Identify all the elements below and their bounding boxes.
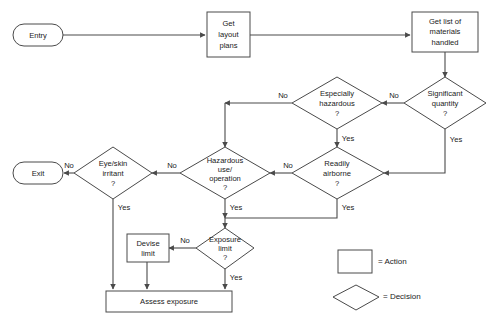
node-readily-airborne[interactable]: Readily airborne ?: [292, 147, 384, 199]
edge-label-airborne-no: No: [283, 161, 293, 170]
edge-label-irritant-yes: Yes: [118, 203, 131, 212]
legend: = Action = Decision: [333, 250, 421, 310]
hazardous-use-label-2: use/: [218, 165, 233, 174]
edge-label-explimit-yes: Yes: [230, 273, 243, 282]
get-list-materials-label-3: handled: [431, 38, 458, 47]
especially-hazardous-label-2: hazardous: [319, 99, 355, 108]
hazardous-use-label-4: ?: [223, 183, 227, 192]
node-exit[interactable]: Exit: [13, 162, 63, 184]
node-hazardous-use[interactable]: Hazardous use/ operation ?: [180, 147, 270, 199]
significant-quantity-label-2: quantity: [432, 99, 459, 108]
significant-quantity-label-3: ?: [443, 109, 447, 118]
node-eye-skin-irritant[interactable]: Eye/skin irritant ?: [74, 147, 152, 199]
especially-hazardous-label-3: ?: [335, 109, 339, 118]
edge-sigqty-yes-to-airborne: [384, 129, 445, 173]
node-get-list-materials[interactable]: Get list of materials handled: [412, 12, 478, 52]
assess-exposure-label: Assess exposure: [140, 297, 198, 306]
edge-label-sigqty-yes: Yes: [450, 135, 463, 144]
get-list-materials-label-2: materials: [430, 27, 461, 36]
node-assess-exposure[interactable]: Assess exposure: [106, 291, 232, 312]
edge-label-airborne-yes: Yes: [342, 203, 355, 212]
exposure-limit-label-1: Exposure: [209, 235, 241, 244]
especially-hazardous-label-1: Especially: [320, 89, 354, 98]
significant-quantity-label-1: Significant: [427, 89, 463, 98]
readily-airborne-label-2: airborne: [323, 169, 351, 178]
readily-airborne-label-1: Readily: [324, 159, 350, 168]
readily-airborne-label-3: ?: [335, 179, 339, 188]
get-layout-plans-label-3: plans: [219, 41, 237, 50]
eye-skin-irritant-label-1: Eye/skin: [99, 159, 128, 168]
legend-decision-label: = Decision: [383, 292, 421, 301]
legend-action-shape: [338, 250, 372, 273]
node-significant-quantity[interactable]: Significant quantity ?: [404, 77, 486, 129]
legend-decision-shape: [333, 285, 379, 310]
get-layout-plans-label-2: layout: [218, 30, 239, 39]
legend-action-label: = Action: [378, 257, 407, 266]
node-exposure-limit[interactable]: Exposure limit ?: [196, 228, 254, 269]
node-especially-hazardous[interactable]: Especially hazardous ?: [292, 77, 382, 129]
exposure-limit-label-2: limit: [218, 244, 232, 253]
edge-label-irritant-no: No: [64, 161, 74, 170]
edge-label-sigqty-no: No: [389, 91, 399, 100]
flowchart-svg: Entry Get layout plans Get list of mater…: [0, 0, 501, 324]
devise-limit-label-1: Devise: [136, 239, 159, 248]
node-entry[interactable]: Entry: [13, 24, 63, 46]
edge-label-esphaz-no: No: [278, 91, 288, 100]
hazardous-use-label-1: Hazardous: [207, 156, 244, 165]
exposure-limit-label-3: ?: [223, 253, 227, 262]
devise-limit-label-2: limit: [141, 249, 155, 258]
exit-label: Exit: [32, 169, 46, 178]
node-devise-limit[interactable]: Devise limit: [127, 234, 169, 262]
get-list-materials-label-1: Get list of: [429, 17, 462, 26]
node-get-layout-plans[interactable]: Get layout plans: [207, 12, 250, 57]
edge-label-explimit-no: No: [180, 236, 190, 245]
eye-skin-irritant-label-2: irritant: [102, 169, 124, 178]
edge-label-esphaz-yes: Yes: [342, 134, 355, 143]
flowchart-canvas: Entry Get layout plans Get list of mater…: [0, 0, 501, 324]
eye-skin-irritant-label-3: ?: [111, 179, 115, 188]
get-layout-plans-label-1: Get: [222, 19, 235, 28]
entry-label: Entry: [29, 31, 47, 40]
edge-label-hazuse-no: No: [167, 161, 177, 170]
hazardous-use-label-3: operation: [209, 174, 241, 183]
edge-label-hazuse-yes: Yes: [230, 203, 243, 212]
